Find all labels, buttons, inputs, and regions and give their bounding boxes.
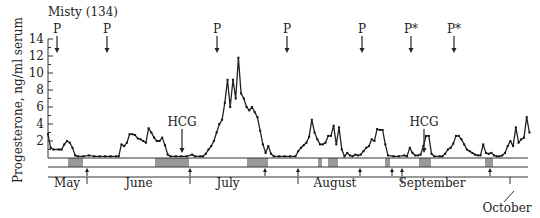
shaded-period: [155, 158, 189, 167]
shaded-period: [247, 158, 268, 167]
month-label: August: [313, 176, 357, 190]
shaded-period: [419, 158, 431, 167]
y-tick-label: 12: [29, 49, 44, 63]
month-label: July: [214, 176, 239, 190]
svg-text:Progesterone, ng/ml serum: Progesterone, ng/ml serum: [11, 16, 25, 183]
y-tick-label: 2: [36, 134, 44, 148]
shaded-period: [485, 158, 493, 167]
month-label: September: [399, 176, 466, 190]
month-labels: MayJuneJulyAugustSeptemberOctober: [54, 176, 532, 215]
shaded-period: [385, 158, 390, 167]
y-tick-label: 10: [29, 66, 44, 80]
svg-text:Misty (134): Misty (134): [48, 5, 118, 19]
y-tick-label: 8: [36, 83, 44, 97]
month-label: May: [54, 176, 80, 190]
p-annotation: P*: [404, 22, 418, 36]
y-tick-label: 6: [36, 100, 44, 114]
p-annotation: P: [103, 22, 111, 36]
progesterone-chart: Misty (134) Progesterone, ng/ml serum 24…: [0, 0, 540, 218]
hcg-annotation: HCG: [167, 115, 196, 129]
data-series-line: [47, 57, 530, 158]
hcg-annotation: HCG: [409, 115, 438, 129]
p-annotation: P: [283, 22, 291, 36]
p-annotation: P: [213, 22, 221, 36]
month-label: October: [482, 201, 531, 215]
chart-title: Misty (134): [48, 5, 118, 19]
p-annotation: P: [53, 22, 61, 36]
month-label: June: [123, 176, 152, 190]
shaded-period: [318, 158, 322, 167]
shaded-period: [68, 158, 83, 167]
p-annotation: P*: [447, 22, 461, 36]
y-tick-label: 14: [29, 32, 45, 46]
annotations: PPPPPP*P*HCGHCG: [53, 22, 461, 153]
p-annotation: P: [358, 22, 366, 36]
shaded-period: [328, 158, 338, 167]
y-axis-label: Progesterone, ng/ml serum: [11, 16, 25, 183]
y-tick-label: 4: [36, 117, 44, 131]
